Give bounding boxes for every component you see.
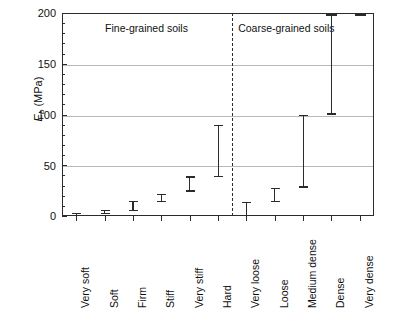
x-axis-tick bbox=[161, 216, 162, 221]
error-bar-cap-top bbox=[101, 210, 110, 211]
x-axis-tick bbox=[246, 216, 247, 221]
y-major-tick bbox=[62, 13, 67, 14]
x-axis-label-stiff: Stiff bbox=[165, 290, 176, 308]
error-bar-cap-top bbox=[157, 194, 166, 195]
y-minor-tick bbox=[62, 135, 65, 136]
x-axis-label-hard: Hard bbox=[222, 285, 233, 308]
x-axis-tick bbox=[331, 216, 332, 221]
y-minor-tick bbox=[62, 23, 65, 24]
y-major-tick bbox=[62, 115, 67, 116]
y-minor-tick bbox=[62, 175, 65, 176]
y-minor-tick bbox=[62, 196, 65, 197]
y-minor-tick bbox=[62, 155, 65, 156]
error-bar-cap-bottom bbox=[271, 201, 280, 202]
y-major-tick bbox=[62, 64, 67, 65]
group-label-fine-grained: Fine-grained soils bbox=[105, 22, 188, 34]
y-tick-label-200: 200 bbox=[38, 8, 56, 19]
group-divider bbox=[232, 13, 233, 216]
error-bar-cap-bottom bbox=[129, 210, 138, 211]
error-bar-cap-top bbox=[186, 176, 195, 177]
x-axis-label-soft: Soft bbox=[109, 289, 120, 308]
error-bar-stem bbox=[331, 13, 332, 115]
x-axis-label-loose: Loose bbox=[279, 279, 290, 308]
y-minor-tick bbox=[62, 43, 65, 44]
y-minor-tick bbox=[62, 206, 65, 207]
x-axis-tick bbox=[190, 216, 191, 221]
error-bar-cap-bottom bbox=[299, 186, 308, 187]
error-bar-cap-top bbox=[242, 202, 251, 203]
y-minor-tick bbox=[62, 33, 65, 34]
y-minor-tick bbox=[62, 94, 65, 95]
plot-area bbox=[62, 13, 374, 216]
y-tick-label-100: 100 bbox=[38, 110, 56, 121]
error-bar-stem bbox=[189, 176, 190, 191]
x-axis-label-very-stiff: Very stiff bbox=[194, 268, 205, 308]
error-bar-cap-bottom bbox=[214, 176, 223, 177]
x-axis-tick bbox=[275, 216, 276, 221]
x-axis-label-dense: Dense bbox=[335, 278, 346, 308]
gridline-150 bbox=[63, 65, 373, 66]
error-bar-cap-bottom bbox=[186, 190, 195, 191]
y-tick-label-150: 150 bbox=[38, 59, 56, 70]
x-axis-label-very-dense: Very dense bbox=[364, 255, 375, 308]
error-bar-stem bbox=[218, 125, 219, 178]
x-axis-tick bbox=[360, 216, 361, 221]
error-bar-stem bbox=[303, 115, 304, 188]
x-axis-tick bbox=[303, 216, 304, 221]
y-minor-tick bbox=[62, 186, 65, 187]
y-tick-label-50: 50 bbox=[44, 161, 56, 172]
x-axis-label-firm: Firm bbox=[137, 287, 148, 308]
error-bar-cap-top bbox=[326, 13, 337, 16]
y-minor-tick bbox=[62, 84, 65, 85]
y-minor-tick bbox=[62, 145, 65, 146]
y-minor-tick bbox=[62, 104, 65, 105]
x-axis-label-medium-dense: Medium dense bbox=[307, 239, 318, 308]
x-axis-tick bbox=[133, 216, 134, 221]
error-bar-cap-bottom bbox=[327, 113, 336, 114]
y-major-tick bbox=[62, 216, 67, 217]
error-bar-cap-top bbox=[355, 13, 366, 16]
x-axis-label-very-loose: Very loose bbox=[250, 259, 261, 308]
y-minor-tick bbox=[62, 74, 65, 75]
y-tick-labels: 200 150 100 50 0 bbox=[20, 0, 56, 312]
x-axis-tick bbox=[105, 216, 106, 221]
x-axis-tick bbox=[218, 216, 219, 221]
chart-figure: Eb (MPa) 200 150 100 50 0 Fine-grained s… bbox=[0, 0, 396, 312]
y-minor-tick bbox=[62, 125, 65, 126]
error-bar-cap-top bbox=[129, 201, 138, 202]
y-tick-label-0: 0 bbox=[50, 211, 56, 222]
y-major-tick bbox=[62, 165, 67, 166]
error-bar-cap-bottom bbox=[157, 201, 166, 202]
x-axis-tick bbox=[76, 216, 77, 221]
error-bar-cap-bottom bbox=[101, 213, 110, 214]
x-axis-label-very-soft: Very soft bbox=[80, 267, 91, 308]
gridline-100 bbox=[63, 116, 373, 117]
group-label-coarse-grained: Coarse-grained soils bbox=[238, 22, 334, 34]
error-bar-cap-top bbox=[299, 115, 308, 116]
y-minor-tick bbox=[62, 54, 65, 55]
error-bar-cap-top bbox=[214, 125, 223, 126]
error-bar-cap-top bbox=[271, 188, 280, 189]
